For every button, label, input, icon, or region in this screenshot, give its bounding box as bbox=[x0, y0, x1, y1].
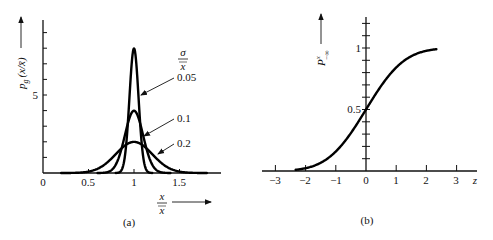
x-label-a-denominator: x bbox=[159, 204, 165, 216]
series-label-0-2: 0.2 bbox=[177, 137, 191, 149]
figure: 5 0 0.5 1 1.5 σ x 0.05 0.1 0.2 pg(x/x̄) … bbox=[0, 0, 493, 240]
x-tick-label-1: 1 bbox=[131, 176, 137, 188]
series-label-0-1: 0.1 bbox=[177, 112, 191, 124]
x-tick-label-1-5: 1.5 bbox=[172, 176, 186, 188]
x-tick-label-0-b: 0 bbox=[363, 174, 369, 186]
y-tick-label-0-5: 0.5 bbox=[347, 103, 361, 115]
pointer-arrow-0-05 bbox=[141, 78, 174, 95]
y-tick-label-1: 1 bbox=[356, 42, 362, 54]
y-label-a-arg: (x/x̄) bbox=[15, 57, 28, 77]
x-tick-label-m2: −2 bbox=[299, 174, 311, 186]
series-label-0-05: 0.05 bbox=[177, 71, 197, 83]
x-axis-label-b: z bbox=[472, 174, 478, 186]
caption-b: (b) bbox=[361, 214, 374, 227]
svg-text:Px−∞: Px−∞ bbox=[314, 50, 331, 67]
y-label-b-sup: x bbox=[314, 55, 322, 60]
x-tick-label-m1: −1 bbox=[330, 174, 342, 186]
y-label-a-sub: g bbox=[21, 80, 30, 84]
x-tick-label-2-b: 2 bbox=[423, 174, 429, 186]
x-tick-label-m3: −3 bbox=[269, 174, 281, 186]
y-axis-label-a: pg(x/x̄) bbox=[15, 57, 30, 90]
pointer-arrow-0-2 bbox=[158, 144, 174, 154]
x-label-a-numerator: x bbox=[159, 190, 165, 202]
panel-b: 1 0.5 −3 −2 −1 0 1 2 3 z Px−∞ (b) bbox=[262, 14, 478, 227]
svg-text:pg(x/x̄): pg(x/x̄) bbox=[15, 57, 30, 90]
y-label-b-sub: −∞ bbox=[323, 50, 331, 60]
x-tick-label-0: 0 bbox=[40, 176, 46, 188]
panel-a: 5 0 0.5 1 1.5 σ x 0.05 0.1 0.2 pg(x/x̄) … bbox=[15, 17, 221, 229]
y-tick-label-5: 5 bbox=[33, 89, 39, 101]
pointer-arrow-0-1 bbox=[144, 119, 174, 136]
x-tick-label-1-b: 1 bbox=[393, 174, 399, 186]
x-tick-label-0-5: 0.5 bbox=[81, 176, 95, 188]
caption-a: (a) bbox=[123, 216, 136, 229]
y-axis-label-b: Px−∞ bbox=[314, 50, 331, 67]
legend-title-numerator: σ bbox=[180, 46, 186, 58]
x-tick-label-3-b: 3 bbox=[453, 174, 459, 186]
